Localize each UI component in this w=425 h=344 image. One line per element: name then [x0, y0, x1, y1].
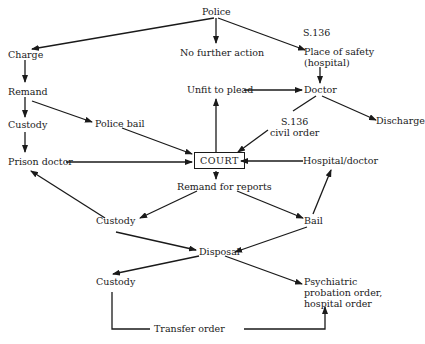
node-custody-remand: Custody	[96, 215, 135, 226]
node-hospital-doctor: Hospital/doctor	[303, 155, 378, 166]
node-remand: Remand	[8, 86, 48, 97]
node-psychiatric-line3: hospital order	[304, 298, 372, 309]
node-psychiatric-line2: probation order,	[304, 287, 382, 298]
node-place-of-safety: Place of safety	[304, 46, 374, 57]
node-disposal: Disposal	[199, 246, 240, 257]
node-unfit-to-plead: Unfit to plead	[187, 84, 253, 95]
node-custody-initial: Custody	[8, 119, 47, 130]
node-remand-for-reports: Remand for reports	[177, 181, 272, 192]
node-bail: Bail	[304, 215, 323, 226]
node-no-further-action: No further action	[180, 47, 264, 58]
node-discharge: Discharge	[376, 115, 425, 126]
node-psychiatric-line1: Psychiatric	[304, 276, 357, 287]
label-civil-order: civil order	[270, 127, 319, 138]
node-place-of-safety-hospital: (hospital)	[304, 57, 350, 68]
node-prison-doctor: Prison doctor	[8, 156, 73, 167]
node-charge: Charge	[8, 49, 43, 60]
node-police: Police	[202, 6, 231, 17]
node-court: COURT	[194, 152, 245, 169]
node-custody-disposal: Custody	[96, 276, 135, 287]
node-doctor: Doctor	[304, 84, 337, 95]
label-s136-top: S.136	[303, 27, 330, 38]
label-s136-civil: S.136	[281, 116, 308, 127]
node-police-bail: Police bail	[95, 118, 145, 129]
label-transfer-order: Transfer order	[154, 323, 225, 334]
